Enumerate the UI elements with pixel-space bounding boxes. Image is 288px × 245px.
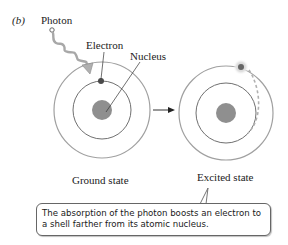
arrow-right-icon [168,107,175,113]
nucleus [216,103,236,123]
electron-label: Electron [86,40,123,51]
excited-electron [238,64,244,70]
transition-arrow [153,107,175,113]
callout-box: The absorption of the photon boosts an e… [36,203,271,236]
ground-state-label: Ground state [72,175,129,186]
electron-leader-line [101,52,104,79]
photon-wave [53,33,87,65]
nucleus [92,100,112,120]
photon-arrowhead-icon [82,63,93,74]
callout-pointer [200,188,208,204]
panel-label: (b) [12,15,25,26]
nucleus-label: Nucleus [130,51,166,62]
nucleus-leader-line [106,62,140,112]
photon-label: Photon [41,15,72,26]
excited-state-label: Excited state [197,172,254,183]
excited-state-atom [179,59,273,160]
ground-state-atom [54,52,150,158]
photon-icon [50,28,54,32]
